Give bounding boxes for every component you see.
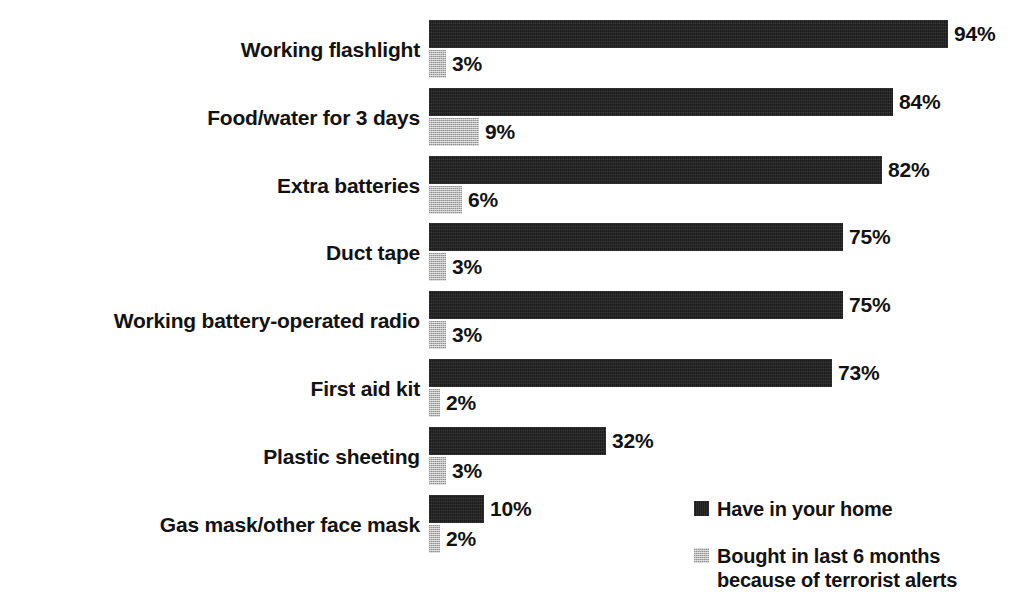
bar-value-label: 75%	[849, 225, 890, 249]
bar-value-label: 3%	[452, 255, 482, 279]
bar-value-label: 94%	[954, 22, 995, 46]
bar-row: 82%	[429, 156, 989, 184]
category-label: Duct tape	[0, 240, 420, 265]
bar-bought-recently	[429, 118, 479, 146]
bar-row: 2%	[429, 389, 989, 417]
bar-have-in-home	[429, 291, 843, 319]
bar-have-in-home	[429, 88, 893, 116]
bar-row: 84%	[429, 88, 989, 116]
bar-have-in-home	[429, 156, 882, 184]
bar-row: 32%	[429, 427, 989, 455]
legend-label: Bought in last 6 months because of terro…	[717, 544, 957, 592]
bar-group: Working battery-operated radio75%3%	[0, 291, 1019, 359]
bar-have-in-home	[429, 223, 843, 251]
bar-row: 3%	[429, 50, 989, 78]
bar-group: Plastic sheeting32%3%	[0, 427, 1019, 495]
bar-bought-recently	[429, 50, 446, 78]
legend-label: Have in your home	[717, 497, 893, 521]
bar-have-in-home	[429, 495, 484, 523]
bar-value-label: 9%	[485, 120, 515, 144]
bar-group: Duct tape75%3%	[0, 223, 1019, 291]
bar-bought-recently	[429, 457, 446, 485]
bar-value-label: 6%	[468, 188, 498, 212]
bar-value-label: 75%	[849, 293, 890, 317]
category-label: Gas mask/other face mask	[0, 512, 420, 537]
bar-row: 94%	[429, 20, 989, 48]
bar-chart: Working flashlight94%3%Food/water for 3 …	[0, 0, 1019, 608]
bar-bought-recently	[429, 253, 446, 281]
bar-group: Extra batteries82%6%	[0, 156, 1019, 224]
bar-group: Working flashlight94%3%	[0, 20, 1019, 88]
bar-bought-recently	[429, 186, 462, 214]
bar-value-label: 3%	[452, 459, 482, 483]
bar-bought-recently	[429, 389, 440, 417]
category-label: Plastic sheeting	[0, 444, 420, 469]
category-label: Working battery-operated radio	[0, 308, 420, 333]
bar-value-label: 3%	[452, 52, 482, 76]
bar-value-label: 10%	[490, 497, 531, 521]
bar-value-label: 73%	[838, 361, 879, 385]
bar-have-in-home	[429, 427, 606, 455]
bar-row: 75%	[429, 291, 989, 319]
bar-row: 3%	[429, 321, 989, 349]
category-label: Working flashlight	[0, 37, 420, 62]
category-label: Extra batteries	[0, 173, 420, 198]
bar-row: 9%	[429, 118, 989, 146]
bar-row: 75%	[429, 223, 989, 251]
bar-row: 3%	[429, 253, 989, 281]
bar-value-label: 82%	[888, 158, 929, 182]
legend-item: Have in your home	[694, 497, 1014, 521]
bar-value-label: 2%	[446, 391, 476, 415]
bar-group: First aid kit73%2%	[0, 359, 1019, 427]
bar-group: Food/water for 3 days84%9%	[0, 88, 1019, 156]
bar-value-label: 32%	[612, 429, 653, 453]
bar-have-in-home	[429, 20, 948, 48]
chart-legend: Have in your homeBought in last 6 months…	[694, 497, 1014, 592]
legend-swatch-light-icon	[694, 548, 709, 563]
bar-row: 6%	[429, 186, 989, 214]
bar-value-label: 84%	[899, 90, 940, 114]
bar-row: 73%	[429, 359, 989, 387]
bar-bought-recently	[429, 321, 446, 349]
category-label: Food/water for 3 days	[0, 105, 420, 130]
legend-item: Bought in last 6 months because of terro…	[694, 544, 1014, 592]
legend-swatch-dark-icon	[694, 501, 709, 516]
bar-value-label: 2%	[446, 527, 476, 551]
category-label: First aid kit	[0, 376, 420, 401]
bar-value-label: 3%	[452, 323, 482, 347]
bar-bought-recently	[429, 525, 440, 553]
bar-have-in-home	[429, 359, 832, 387]
bar-row: 3%	[429, 457, 989, 485]
